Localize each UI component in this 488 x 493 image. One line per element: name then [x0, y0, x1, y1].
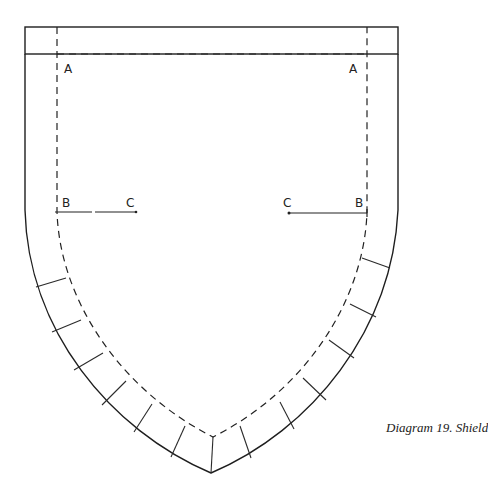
- diagram-caption: Diagram 19. Shield: [386, 420, 488, 436]
- point-c-left: [135, 211, 138, 214]
- label-c-left: C: [126, 196, 134, 210]
- right-ticks: [240, 258, 390, 458]
- label-a-right: A: [349, 62, 358, 76]
- point-c-right: [288, 212, 291, 215]
- center-tick: [211, 437, 213, 473]
- label-b-right: B: [355, 196, 363, 210]
- label-a-left: A: [64, 62, 73, 76]
- top-band: [25, 27, 398, 54]
- label-c-right: C: [283, 196, 291, 210]
- left-ticks: [36, 278, 185, 457]
- shield-inner-seam: [57, 27, 367, 437]
- label-b-left: B: [62, 196, 70, 210]
- shield-outer-outline: [25, 54, 398, 473]
